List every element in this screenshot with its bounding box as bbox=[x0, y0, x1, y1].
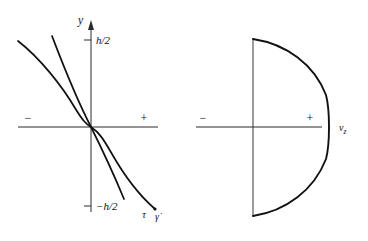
figure-canvas: − + y h/2 −h/2 τ γ̇ − + vz bbox=[0, 0, 368, 241]
shear-rate-curve-label: γ̇ bbox=[155, 211, 162, 222]
y-axis-label: y bbox=[77, 14, 84, 27]
tick-label-lower: −h/2 bbox=[96, 200, 118, 212]
left-positive-sign-label: + bbox=[141, 111, 148, 125]
shear-stress-curve bbox=[52, 36, 124, 199]
velocity-profile-label-subscript: z bbox=[342, 127, 346, 136]
figure-root: − + y h/2 −h/2 τ γ̇ − + vz bbox=[0, 0, 368, 241]
left-negative-sign-label: − bbox=[25, 111, 32, 125]
shear-rate-curve bbox=[18, 41, 155, 209]
right-panel: − + vz bbox=[196, 39, 346, 216]
velocity-profile-label: vz bbox=[339, 122, 346, 136]
tick-label-upper: h/2 bbox=[96, 34, 111, 46]
right-positive-sign-label: + bbox=[307, 111, 314, 125]
shear-stress-curve-label: τ bbox=[142, 209, 146, 220]
right-negative-sign-label: − bbox=[200, 111, 207, 125]
left-panel: − + y h/2 −h/2 τ γ̇ bbox=[18, 14, 162, 222]
y-axis-arrowhead-icon bbox=[88, 20, 94, 30]
